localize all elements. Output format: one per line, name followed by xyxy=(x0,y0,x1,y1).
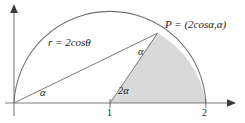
point-p-label: P = (2cosα,α) xyxy=(165,19,226,30)
curve-equation-label: r = 2cosθ xyxy=(48,37,91,48)
x-tick-label-2: 2 xyxy=(202,108,207,118)
angle-alpha-origin-label: α xyxy=(40,88,46,99)
arrow-right-icon xyxy=(227,99,236,107)
angle-alpha-at-p-label: α xyxy=(138,47,144,58)
arrow-up-icon xyxy=(10,4,18,13)
angle-two-alpha-label: 2α xyxy=(118,86,129,97)
polar-curve-figure: r = 2cosθ P = (2cosα,α) α 2α α 1 2 xyxy=(0,0,245,123)
x-tick-label-1: 1 xyxy=(107,108,112,118)
